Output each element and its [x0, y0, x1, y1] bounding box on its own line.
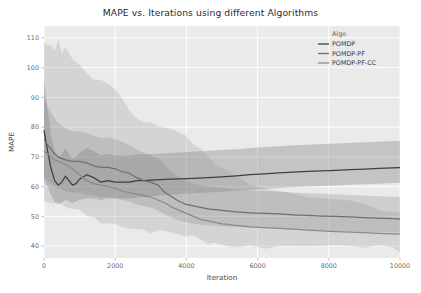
y-tick-label: 50: [31, 213, 39, 221]
x-tick-label: 10000: [390, 262, 410, 270]
x-tick-label: 8000: [321, 262, 337, 270]
y-tick-label: 110: [27, 34, 39, 42]
y-tick-label: 60: [31, 183, 39, 191]
legend-title: Algo: [332, 30, 346, 38]
legend-item-label[interactable]: POMDP-PF: [332, 50, 365, 58]
y-axis-title: MAPE: [7, 132, 16, 152]
y-tick-label: 40: [31, 242, 39, 250]
x-tick-label: 2000: [107, 262, 123, 270]
chart-figure: MAPE vs. Iterations using different Algo…: [0, 0, 421, 293]
legend-item-label[interactable]: POMDP-PF-CC: [332, 59, 377, 67]
x-tick-label: 4000: [178, 262, 194, 270]
y-tick-label: 80: [31, 123, 39, 131]
chart-plot-area: 4050607080901001100200040006000800010000…: [0, 0, 421, 293]
x-axis-title: Iteration: [207, 273, 238, 282]
y-tick-label: 100: [27, 64, 39, 72]
y-tick-label: 70: [31, 153, 39, 161]
y-tick-label: 90: [31, 94, 39, 102]
legend-item-label[interactable]: POMDP: [332, 40, 355, 48]
x-tick-label: 0: [42, 262, 46, 270]
x-tick-label: 6000: [249, 262, 265, 270]
